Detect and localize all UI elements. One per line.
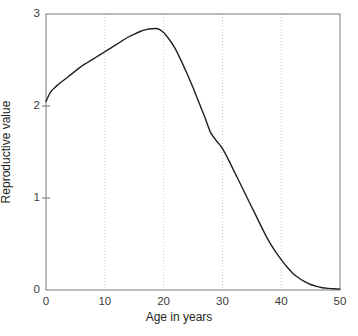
y-tick-label-0: 0: [20, 284, 40, 296]
x-tick-label-50: 50: [334, 296, 347, 308]
x-tick-label-30: 30: [216, 296, 229, 308]
y-tick-label-2: 2: [20, 100, 40, 112]
chart-figure: 0123 01020304050 Age in years Reproducti…: [0, 0, 358, 336]
x-tick-label-40: 40: [275, 296, 288, 308]
x-tick-label-10: 10: [98, 296, 111, 308]
data-series-group: [46, 29, 340, 290]
x-tick-label-20: 20: [157, 296, 170, 308]
x-tick-label-0: 0: [43, 296, 49, 308]
plot-frame: [46, 14, 340, 290]
y-tick-label-3: 3: [20, 8, 40, 20]
axis-frame: [46, 14, 340, 290]
y-axis-title: Reproductive value: [0, 14, 18, 290]
series-line-0: [46, 29, 340, 290]
chart-plot-area: [0, 0, 358, 336]
y-tick-label-1: 1: [20, 192, 40, 204]
x-axis-title: Age in years: [0, 311, 358, 323]
gridlines-group: [105, 14, 281, 290]
